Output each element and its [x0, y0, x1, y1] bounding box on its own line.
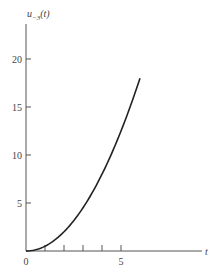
- axes: 055101520: [12, 24, 202, 267]
- chart: 055101520 u−3(t) t: [0, 0, 217, 279]
- y-axis-label: u−3(t): [27, 8, 50, 22]
- y-tick-label: 15: [12, 102, 22, 113]
- y-tick-label: 5: [17, 198, 22, 209]
- y-tick-label: 20: [12, 54, 22, 65]
- data-curve: [26, 78, 140, 251]
- x-axis-label: t: [205, 246, 208, 257]
- x-tick-label: 5: [119, 256, 124, 267]
- x-tick-label: 0: [24, 256, 29, 267]
- y-tick-label: 10: [12, 150, 22, 161]
